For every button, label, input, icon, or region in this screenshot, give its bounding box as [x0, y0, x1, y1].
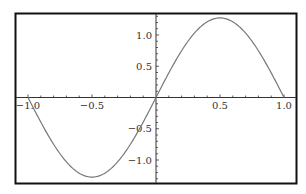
y-tick-label: 0.5: [136, 61, 152, 72]
x-tick-label: 0.5: [212, 100, 228, 111]
x-tick-label: −0.5: [80, 100, 104, 111]
y-tick-label: −1.0: [128, 155, 152, 166]
line-chart: −1.0−0.50.51.01.00.5−0.5−1.0: [0, 0, 306, 194]
x-tick-label: −1.0: [16, 100, 40, 111]
y-tick-label: 1.0: [136, 30, 152, 41]
x-tick-label: 1.0: [276, 100, 292, 111]
